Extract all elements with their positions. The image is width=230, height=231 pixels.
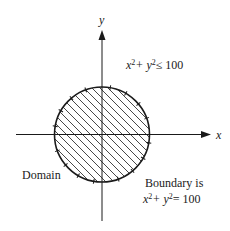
x-axis-label: x — [215, 128, 222, 142]
y-axis-label: y — [98, 13, 105, 27]
x-axis — [16, 131, 211, 138]
diagram-canvas: x y x2+ y2≤ 100 Domain Boundary is x2+ y… — [0, 0, 230, 231]
y-axis — [99, 30, 106, 221]
y-axis-arrow-icon — [99, 30, 106, 40]
x-axis-arrow-icon — [201, 131, 211, 138]
boundary-label: Boundary is — [145, 176, 204, 190]
domain-label: Domain — [22, 168, 61, 182]
inequality-label: x2+ y2≤ 100 — [125, 58, 183, 72]
boundary-equation: x2+ y2= 100 — [142, 192, 201, 206]
